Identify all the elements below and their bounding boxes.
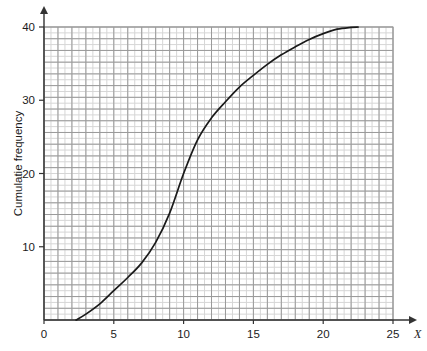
chart-canvas: 0510152025 10203040 Cumulatie frequency … [0,0,427,351]
cumulative-frequency-chart: 0510152025 10203040 Cumulatie frequency … [0,0,427,351]
y-tick-label: 40 [22,21,35,33]
y-tick-label: 30 [22,94,35,106]
x-tick-label: 15 [247,328,260,340]
x-tick-label: 25 [387,328,400,340]
x-tick-label: 5 [111,328,117,340]
x-tick-label: 10 [177,328,190,340]
chart-background [0,0,427,351]
x-tick-label: 0 [41,328,47,340]
x-axis-variable-label: X [413,327,422,341]
y-tick-label: 10 [22,241,35,253]
y-axis-title: Cumulatie frequency [12,111,24,217]
x-tick-label: 20 [317,328,330,340]
y-tick-label: 20 [22,168,35,180]
